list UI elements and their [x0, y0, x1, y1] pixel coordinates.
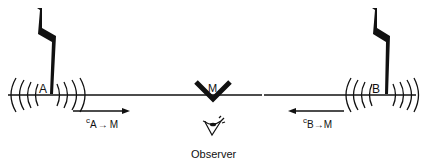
- speed-label-a-to-m: cA→M: [86, 116, 118, 130]
- point-a-label: A: [39, 82, 47, 96]
- mirror-m-label: M: [208, 82, 217, 94]
- lightning-simultaneity-diagram: A B cA→M cB→M M: [0, 0, 424, 165]
- point-b-label: B: [372, 82, 380, 96]
- observer-label: Observer: [191, 148, 237, 160]
- arrow-b-to-m: [288, 108, 344, 114]
- speed-label-b-to-m: cB→M: [303, 116, 332, 130]
- eye-icon: [203, 116, 225, 135]
